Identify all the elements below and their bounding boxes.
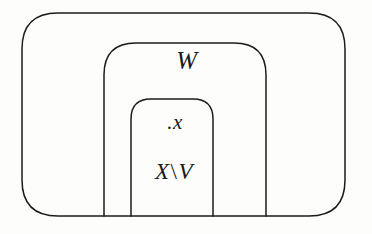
- point-x-label: .x: [133, 112, 215, 133]
- point-x-name: x: [173, 110, 182, 134]
- point-marker-dot: .: [166, 110, 173, 134]
- inner-region-label-v: V: [178, 159, 193, 184]
- inner-region-label: X\V: [133, 160, 215, 183]
- middle-region-label: W: [1, 48, 372, 73]
- inner-region-label-x: X: [155, 159, 170, 184]
- figure-canvas: W .x X\V: [0, 0, 372, 234]
